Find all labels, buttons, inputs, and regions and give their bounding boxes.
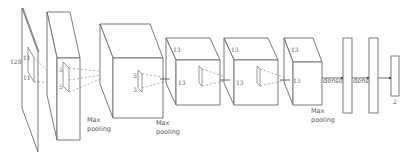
conv2-kernel-label-b: 3 <box>133 86 137 93</box>
input-kernel-label-a: 11 <box>23 54 31 61</box>
cnn-diagram: 128 11 11 5 5 Max pooling 3 3 Max poolin… <box>0 0 414 159</box>
input-kernel-label-b: 11 <box>23 74 31 81</box>
conv4-front-label: 13 <box>236 79 244 86</box>
conv1-caption-line2: pooling <box>87 125 111 133</box>
conv3-block: 13 13 <box>160 38 228 105</box>
input-size-label: 128 <box>10 58 22 65</box>
conv1-kernel-label-b: 5 <box>59 83 63 90</box>
conv5-caption-line1: Max <box>311 107 325 115</box>
conv2-caption-line2: pooling <box>156 128 180 136</box>
conv2-kernel-label-a: 3 <box>133 72 137 79</box>
conv3-side-label: 13 <box>173 46 181 53</box>
dense1-label: dense <box>323 77 343 85</box>
dense1-bar <box>343 38 352 113</box>
conv5-side-label: 13 <box>291 46 299 53</box>
output-bar <box>391 56 399 96</box>
conv1-caption-line1: Max <box>87 116 101 124</box>
dense2-bar <box>369 38 378 113</box>
conv4-block: 13 13 <box>220 38 286 105</box>
output-label: 2 <box>393 98 397 105</box>
conv5-front-label: 13 <box>293 77 301 84</box>
conv1-kernel-label-a: 5 <box>59 66 63 73</box>
dense-layers: dense dense 2 <box>322 38 399 113</box>
conv5-caption-line2: pooling <box>311 116 335 124</box>
conv2-caption-line1: Max <box>156 119 170 127</box>
input-layer: 128 11 11 <box>10 8 52 152</box>
conv3-front-label: 13 <box>178 79 186 86</box>
conv4-side-label: 13 <box>231 46 239 53</box>
